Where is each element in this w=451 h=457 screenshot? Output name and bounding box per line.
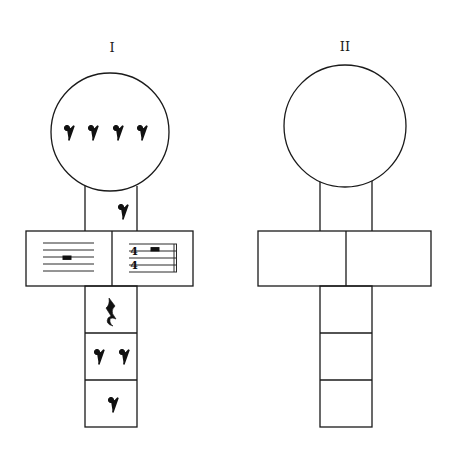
crossbar bbox=[258, 231, 431, 286]
figure-I: I bbox=[26, 40, 193, 427]
time-signature-bottom: 4 bbox=[130, 259, 138, 272]
eighth-rest-icon bbox=[119, 349, 129, 364]
eighth-rest-icon bbox=[108, 397, 118, 412]
lower-stem bbox=[320, 286, 372, 427]
staff-right: 4 4 bbox=[129, 244, 177, 272]
staff-left bbox=[43, 243, 94, 271]
figure-label: II bbox=[340, 39, 350, 54]
quarter-rest-icon bbox=[106, 298, 116, 326]
circle-cell bbox=[284, 65, 406, 187]
time-signature-top: 4 bbox=[130, 245, 138, 258]
whole-rest-icon bbox=[63, 256, 71, 259]
half-rest-icon bbox=[151, 248, 159, 251]
eighth-rest-icon bbox=[94, 349, 104, 364]
figure-label: I bbox=[109, 40, 114, 55]
eighth-rest-icon bbox=[118, 204, 128, 219]
figure-II: II bbox=[258, 39, 431, 427]
diagram-canvas: I bbox=[0, 0, 451, 457]
